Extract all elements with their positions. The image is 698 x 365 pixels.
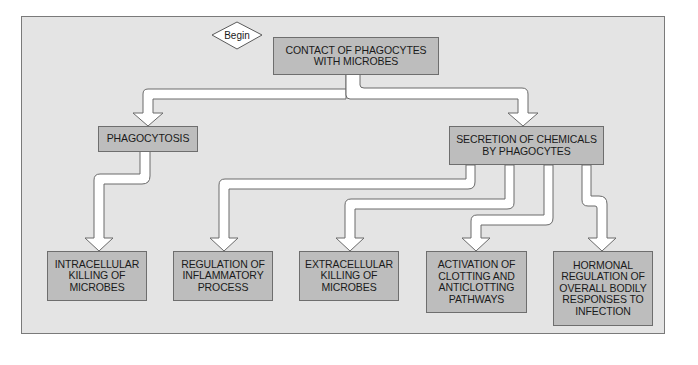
node-intracellular: INTRACELLULAR KILLING OF MICROBES (47, 251, 147, 301)
node-regulation: REGULATION OF INFLAMMATORY PROCESS (173, 251, 273, 301)
node-phagocytosis: PHAGOCYTOSIS (98, 126, 198, 152)
node-hormonal: HORMONAL REGULATION OF OVERALL BODILY RE… (553, 251, 653, 326)
node-extracellular: EXTRACELLULAR KILLING OF MICROBES (299, 251, 399, 301)
node-contact: CONTACT OF PHAGOCYTES WITH MICROBES (273, 37, 439, 75)
node-secretion: SECRETION OF CHEMICALS BY PHAGOCYTES (449, 126, 604, 165)
begin-node: Begin (210, 21, 264, 50)
arrow-secretion-to-hormonal (582, 165, 616, 251)
arrow-contact-to-secretion (346, 75, 538, 126)
node-activation: ACTIVATION OF CLOTTING AND ANTICLOTTING … (426, 251, 527, 313)
arrow-contact-to-phagocytosis (133, 75, 352, 126)
